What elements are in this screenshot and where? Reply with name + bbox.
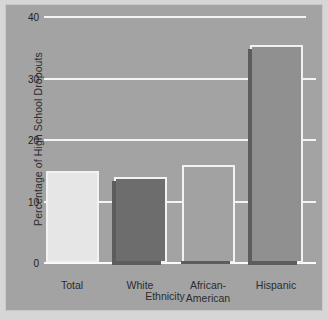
- bar-shadow-bottom: [248, 261, 297, 265]
- bar-shadow-bottom: [181, 261, 230, 264]
- plot-area: 010203040TotalWhiteAfrican- AmericanHisp…: [44, 17, 316, 263]
- y-axis-tick-label: 40: [28, 12, 39, 23]
- bar: [114, 177, 167, 263]
- x-axis-title: Ethnicity: [6, 290, 323, 302]
- x-axis-tick-label: Total: [61, 279, 83, 292]
- y-axis-tick-label: 30: [28, 73, 39, 84]
- gridline: [44, 16, 306, 18]
- bar: [46, 171, 99, 263]
- y-axis-tick-label: 0: [33, 258, 39, 269]
- bar: [250, 45, 303, 263]
- bar: [182, 165, 235, 263]
- chart-plate: Percentage of High School Dropouts Ethni…: [5, 4, 323, 311]
- y-axis-tick-label: 10: [28, 196, 39, 207]
- figure: Percentage of High School Dropouts Ethni…: [0, 0, 328, 319]
- bar-shadow-bottom: [112, 261, 161, 265]
- x-axis-tick-label: White: [127, 279, 154, 292]
- bar-shadow: [248, 49, 252, 265]
- bar-shadow: [112, 181, 116, 265]
- y-axis-tick-label: 20: [28, 135, 39, 146]
- x-axis-tick-label: African- American: [186, 279, 230, 304]
- x-axis-tick-label: Hispanic: [256, 279, 296, 292]
